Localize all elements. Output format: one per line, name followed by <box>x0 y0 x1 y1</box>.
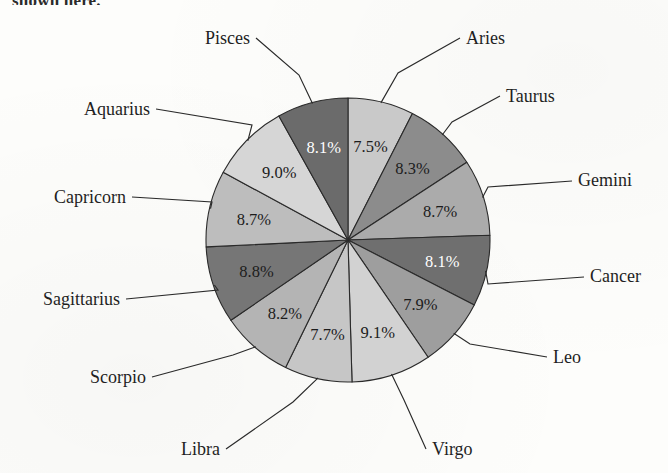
leader-line-sagittarius <box>126 285 218 299</box>
category-label-aries: Aries <box>466 28 505 48</box>
leader-line-aries <box>381 38 460 103</box>
category-label-gemini: Gemini <box>578 170 632 190</box>
leader-line-scorpio <box>152 347 256 377</box>
slice-percent-aquarius: 9.0% <box>262 163 297 182</box>
leader-line-pisces <box>256 38 313 104</box>
category-label-pisces: Pisces <box>205 28 250 48</box>
category-label-virgo: Virgo <box>432 439 473 459</box>
leader-line-gemini <box>483 181 573 198</box>
slice-percent-leo: 7.9% <box>403 295 438 314</box>
leader-line-cancer <box>486 271 584 284</box>
category-label-capricorn: Capricorn <box>54 187 126 207</box>
pie-slices-group <box>206 98 490 382</box>
slice-percent-sagittarius: 8.8% <box>239 262 274 281</box>
leader-line-virgo <box>392 374 427 449</box>
category-label-scorpio: Scorpio <box>90 367 146 387</box>
leader-line-libra <box>226 378 318 449</box>
slice-percent-cancer: 8.1% <box>425 252 460 271</box>
slice-percent-pisces: 8.1% <box>307 138 342 157</box>
slice-percent-gemini: 8.7% <box>423 202 458 221</box>
category-label-libra: Libra <box>181 439 220 459</box>
leader-line-aquarius <box>156 109 252 141</box>
slice-percent-aries: 7.5% <box>353 137 388 156</box>
category-label-sagittarius: Sagittarius <box>43 289 120 309</box>
slice-percent-virgo: 9.1% <box>361 323 396 342</box>
slice-percent-scorpio: 8.2% <box>268 304 303 323</box>
category-label-cancer: Cancer <box>590 266 641 286</box>
category-label-leo: Leo <box>553 347 581 367</box>
category-label-taurus: Taurus <box>506 86 555 106</box>
slice-percent-libra: 7.7% <box>310 325 345 344</box>
slice-percent-capricorn: 8.7% <box>237 210 272 229</box>
leader-line-leo <box>454 333 547 357</box>
pie-chart: 7.5%8.3%8.7%8.1%7.9%9.1%7.7%8.2%8.8%8.7%… <box>0 0 668 473</box>
leader-line-capricorn <box>132 197 212 209</box>
leader-line-taurus <box>442 96 500 135</box>
chart-page: shown here. 7.5%8.3%8.7%8.1%7.9%9.1%7.7%… <box>0 0 668 473</box>
category-label-aquarius: Aquarius <box>84 99 150 119</box>
slice-percent-taurus: 8.3% <box>395 159 430 178</box>
